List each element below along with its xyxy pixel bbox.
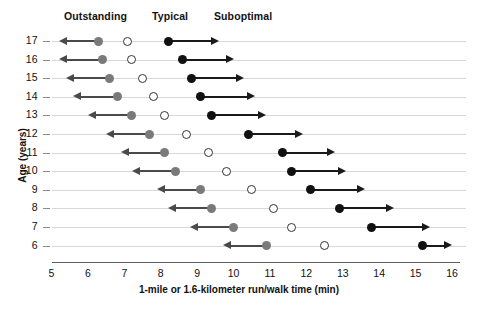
y-axis-tick-label: 8 bbox=[14, 201, 38, 213]
x-axis-tick-label: 12 bbox=[291, 267, 321, 279]
y-axis-tick-label: 17 bbox=[14, 34, 38, 46]
typical-marker bbox=[269, 204, 278, 213]
x-axis-title: 1-mile or 1.6-kilometer run/walk time (m… bbox=[0, 284, 478, 295]
y-axis-tick-label: 6 bbox=[14, 239, 38, 251]
x-axis-tick-label: 10 bbox=[219, 267, 249, 279]
gridline bbox=[52, 60, 467, 61]
legend-label-outstanding: Outstanding bbox=[64, 10, 127, 22]
outstanding-arrow-head-left bbox=[106, 130, 114, 138]
y-axis-tick-label: 11 bbox=[14, 146, 38, 158]
x-axis-tick-label: 9 bbox=[182, 267, 212, 279]
outstanding-arrow-head-left bbox=[59, 37, 67, 45]
suboptimal-arrow-line bbox=[192, 77, 239, 79]
typical-marker bbox=[149, 92, 158, 101]
outstanding-arrow-head-left bbox=[132, 167, 140, 175]
chart-canvas: Outstanding Typical Suboptimal Age (year… bbox=[0, 0, 478, 326]
x-axis-tick-label: 14 bbox=[364, 267, 394, 279]
typical-marker bbox=[320, 241, 329, 250]
gridline bbox=[52, 171, 467, 172]
x-axis-tick-label: 7 bbox=[109, 267, 139, 279]
typical-marker bbox=[287, 223, 296, 232]
y-axis-tick-mark bbox=[43, 246, 50, 247]
outstanding-arrow-head-left bbox=[88, 111, 96, 119]
suboptimal-arrow-head-right bbox=[247, 92, 255, 100]
outstanding-marker bbox=[262, 241, 271, 250]
suboptimal-arrow-line bbox=[212, 114, 261, 116]
typical-marker bbox=[247, 185, 256, 194]
outstanding-marker bbox=[160, 148, 169, 157]
outstanding-arrow-head-left bbox=[168, 204, 176, 212]
x-axis-tick-label: 5 bbox=[37, 267, 67, 279]
suboptimal-arrow-head-right bbox=[236, 74, 244, 82]
suboptimal-marker bbox=[207, 111, 216, 120]
outstanding-marker bbox=[171, 167, 180, 176]
suboptimal-marker bbox=[244, 130, 253, 139]
outstanding-arrow-line bbox=[229, 245, 267, 247]
outstanding-marker bbox=[145, 130, 154, 139]
y-axis-tick-label: 9 bbox=[14, 183, 38, 195]
x-axis-tick-label: 6 bbox=[73, 267, 103, 279]
outstanding-arrow-head-left bbox=[223, 241, 231, 249]
outstanding-arrow-line bbox=[138, 170, 176, 172]
suboptimal-arrow-head-right bbox=[422, 223, 430, 231]
suboptimal-arrow-head-right bbox=[226, 55, 234, 63]
suboptimal-marker bbox=[306, 185, 315, 194]
outstanding-marker bbox=[207, 204, 216, 213]
x-axis-line bbox=[52, 262, 461, 263]
outstanding-marker bbox=[127, 111, 136, 120]
gridline bbox=[52, 190, 467, 191]
outstanding-arrow-head-left bbox=[59, 55, 67, 63]
suboptimal-arrow-line bbox=[292, 170, 341, 172]
y-axis-tick-label: 7 bbox=[14, 220, 38, 232]
outstanding-arrow-line bbox=[163, 189, 201, 191]
suboptimal-marker bbox=[196, 92, 205, 101]
outstanding-marker bbox=[105, 74, 114, 83]
y-axis-tick-label: 12 bbox=[14, 127, 38, 139]
outstanding-arrow-line bbox=[174, 207, 212, 209]
suboptimal-arrow-line bbox=[372, 226, 424, 228]
legend-label-typical: Typical bbox=[152, 10, 188, 22]
suboptimal-arrow-head-right bbox=[357, 185, 365, 193]
y-axis-tick-mark bbox=[43, 171, 50, 172]
suboptimal-marker bbox=[278, 148, 287, 157]
suboptimal-arrow-head-right bbox=[295, 130, 303, 138]
x-axis-tick-label: 13 bbox=[328, 267, 358, 279]
outstanding-marker bbox=[98, 55, 107, 64]
suboptimal-marker bbox=[418, 241, 427, 250]
suboptimal-arrow-head-right bbox=[444, 241, 452, 249]
suboptimal-arrow-line bbox=[283, 152, 330, 154]
outstanding-arrow-head-left bbox=[190, 223, 198, 231]
suboptimal-arrow-head-right bbox=[338, 167, 346, 175]
typical-marker bbox=[127, 55, 136, 64]
typical-marker bbox=[182, 130, 191, 139]
y-axis-tick-mark bbox=[43, 190, 50, 191]
outstanding-marker bbox=[229, 223, 238, 232]
suboptimal-marker bbox=[367, 223, 376, 232]
gridline bbox=[52, 208, 467, 209]
legend-label-suboptimal: Suboptimal bbox=[214, 10, 272, 22]
suboptimal-marker bbox=[187, 74, 196, 83]
outstanding-arrow-line bbox=[94, 114, 132, 116]
suboptimal-arrow-line bbox=[339, 207, 388, 209]
y-axis-tick-label: 14 bbox=[14, 90, 38, 102]
typical-marker bbox=[222, 167, 231, 176]
suboptimal-arrow-line bbox=[248, 133, 297, 135]
outstanding-marker bbox=[94, 37, 103, 46]
suboptimal-arrow-head-right bbox=[327, 148, 335, 156]
suboptimal-marker bbox=[335, 204, 344, 213]
y-axis-tick-mark bbox=[43, 115, 50, 116]
outstanding-arrow-head-left bbox=[121, 148, 129, 156]
gridline bbox=[52, 153, 467, 154]
y-axis-tick-mark bbox=[43, 78, 50, 79]
y-axis-tick-label: 10 bbox=[14, 164, 38, 176]
y-axis-tick-label: 15 bbox=[14, 71, 38, 83]
suboptimal-arrow-line bbox=[168, 40, 213, 42]
suboptimal-arrow-head-right bbox=[386, 204, 394, 212]
gridline bbox=[52, 41, 467, 42]
x-axis-tick-label: 8 bbox=[146, 267, 176, 279]
y-axis-tick-mark bbox=[43, 153, 50, 154]
outstanding-arrow-head-left bbox=[66, 74, 74, 82]
suboptimal-arrow-line bbox=[183, 59, 228, 61]
typical-marker bbox=[204, 148, 213, 157]
suboptimal-arrow-line bbox=[201, 96, 250, 98]
